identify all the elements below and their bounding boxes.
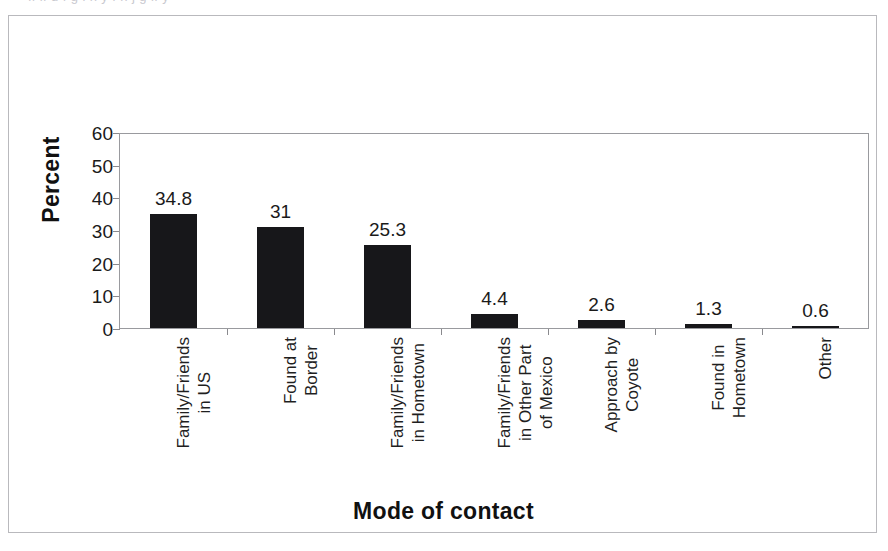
bar-value-label: 34.8 bbox=[120, 189, 227, 208]
y-tick-label: 60 bbox=[73, 124, 113, 143]
y-tick-label: 50 bbox=[73, 156, 113, 175]
x-category-label: Found at Border bbox=[226, 329, 333, 494]
x-category-line: Hometown bbox=[729, 337, 750, 418]
x-category-line: in Hometown bbox=[408, 337, 429, 448]
x-category-line: Other bbox=[815, 337, 836, 380]
bar[interactable] bbox=[364, 245, 411, 328]
x-category-label: Family/Friends in Other Part of Mexico bbox=[440, 329, 547, 494]
x-category-line: in Other Part bbox=[515, 337, 536, 448]
y-tick-label: 20 bbox=[73, 254, 113, 273]
x-category-label: Other bbox=[761, 329, 868, 494]
x-category-label: Family/Friends in Hometown bbox=[333, 329, 440, 494]
bar-value-label: 25.3 bbox=[334, 220, 441, 239]
x-category-line: Approach by bbox=[601, 337, 622, 432]
x-category-label: Family/Friends in US bbox=[119, 329, 226, 494]
x-axis-title: Mode of contact bbox=[9, 498, 878, 525]
x-category-label: Found in Hometown bbox=[654, 329, 761, 494]
bar[interactable] bbox=[471, 314, 518, 328]
x-category-line: Family/Friends bbox=[173, 337, 194, 448]
x-category-line: Family/Friends bbox=[387, 337, 408, 448]
bar-value-label: 1.3 bbox=[655, 299, 762, 318]
x-category-line: Family/Friends bbox=[494, 337, 515, 448]
bar[interactable] bbox=[150, 214, 197, 328]
bar-value-label: 4.4 bbox=[441, 289, 548, 308]
x-category-line: Border bbox=[301, 337, 322, 404]
bar-value-label: 2.6 bbox=[548, 295, 655, 314]
bar[interactable] bbox=[257, 227, 304, 328]
bar[interactable] bbox=[685, 324, 732, 328]
y-axis-tick-labels: 60 50 40 30 20 10 0 bbox=[65, 133, 113, 329]
x-category-label: Approach by Coyote bbox=[547, 329, 654, 494]
caption-remnant-text: ff if d f g i h y f h j g if y bbox=[28, 0, 169, 4]
bar[interactable] bbox=[792, 326, 839, 329]
x-category-line: in US bbox=[194, 337, 215, 448]
x-category-line: Found at bbox=[280, 337, 301, 404]
bar-value-label: 31 bbox=[227, 202, 334, 221]
figure-frame: Percent 60 50 40 30 20 10 0 34.8 31 25.3… bbox=[8, 15, 877, 533]
x-axis-category-labels: Family/Friends in US Found at Border Fam… bbox=[119, 329, 869, 494]
y-axis-title: Percent bbox=[38, 110, 65, 250]
x-category-line: Found in bbox=[708, 337, 729, 418]
bar[interactable] bbox=[578, 320, 625, 329]
y-tick-label: 10 bbox=[73, 287, 113, 306]
y-tick-label: 30 bbox=[73, 222, 113, 241]
x-category-line: Coyote bbox=[622, 337, 643, 432]
y-tick-label: 40 bbox=[73, 189, 113, 208]
plot-area: 34.8 31 25.3 4.4 2.6 1.3 0.6 bbox=[119, 133, 869, 329]
bar-value-label: 0.6 bbox=[762, 301, 869, 320]
y-tick-label: 0 bbox=[73, 320, 113, 339]
caption-remnant: ff if d f g i h y f h j g if y bbox=[0, 0, 888, 9]
